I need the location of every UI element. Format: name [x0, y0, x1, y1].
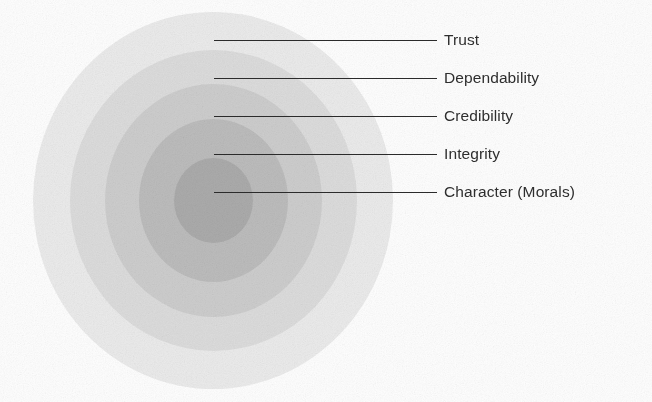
label-integrity: Integrity	[444, 146, 500, 162]
leader-line-dependability	[214, 78, 437, 79]
ring-character	[174, 158, 253, 243]
leader-line-integrity	[214, 154, 437, 155]
leader-line-trust	[214, 40, 437, 41]
label-dependability: Dependability	[444, 70, 539, 86]
leader-line-credibility	[214, 116, 437, 117]
leader-line-character	[214, 192, 437, 193]
label-character-morals: Character (Morals)	[444, 184, 575, 200]
figure-canvas: Trust Dependability Credibility Integrit…	[0, 0, 652, 402]
concentric-rings-group	[0, 0, 652, 402]
label-trust: Trust	[444, 32, 479, 48]
label-credibility: Credibility	[444, 108, 513, 124]
